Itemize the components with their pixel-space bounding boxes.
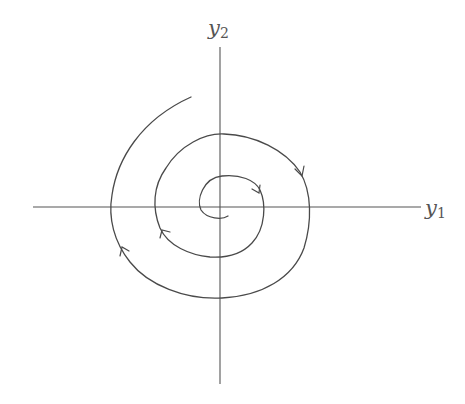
y1-axis-label: y1: [425, 198, 446, 220]
spiral-trajectory: [111, 97, 310, 298]
y2-sub: 2: [220, 25, 229, 41]
y2-axis-label: y2: [208, 18, 229, 40]
y1-var: y: [425, 196, 437, 220]
y2-var: y: [208, 16, 220, 40]
y1-sub: 1: [437, 205, 446, 221]
phase-portrait: [0, 0, 465, 404]
axes: [33, 47, 421, 384]
